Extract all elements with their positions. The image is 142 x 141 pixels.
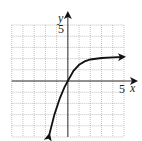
y-tick-label-5: 5: [58, 23, 64, 35]
plot-area: [0, 0, 142, 141]
x-axis-label: x: [130, 82, 135, 94]
axes: [12, 13, 136, 137]
x-tick-label-5: 5: [119, 83, 125, 95]
